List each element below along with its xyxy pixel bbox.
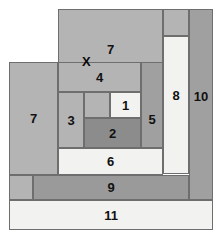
block-11: 11	[9, 200, 213, 230]
block-label: 4	[96, 71, 103, 84]
x-marker: X	[82, 55, 91, 68]
block-label: 1	[122, 99, 129, 112]
block-7-left: 7	[9, 62, 58, 175]
block-2: 2	[84, 118, 141, 148]
block-label: 10	[194, 90, 208, 103]
block-label: 3	[67, 114, 74, 127]
block-label: 9	[107, 181, 114, 194]
squared-rectangle-diagram: 71087453126911X	[0, 0, 224, 238]
block-4: 4	[58, 62, 141, 92]
block-label: 7	[30, 112, 37, 125]
block-6: 6	[58, 148, 163, 175]
block-label: 6	[107, 155, 114, 168]
block-corner-top-right	[163, 9, 189, 36]
block-label: 8	[172, 89, 179, 102]
block-1: 1	[110, 92, 141, 118]
block-label: 5	[148, 113, 155, 126]
block-label: 7	[107, 43, 114, 56]
block-corner-left-low	[9, 175, 33, 200]
block-7-top: 7	[58, 9, 163, 63]
block-label: 11	[104, 209, 118, 222]
block-8: 8	[163, 36, 189, 174]
block-3: 3	[58, 92, 84, 148]
block-unlabeled-mid	[84, 92, 110, 118]
block-label: 2	[109, 127, 116, 140]
block-5: 5	[141, 62, 163, 148]
block-10: 10	[189, 9, 213, 200]
block-9: 9	[33, 175, 189, 200]
